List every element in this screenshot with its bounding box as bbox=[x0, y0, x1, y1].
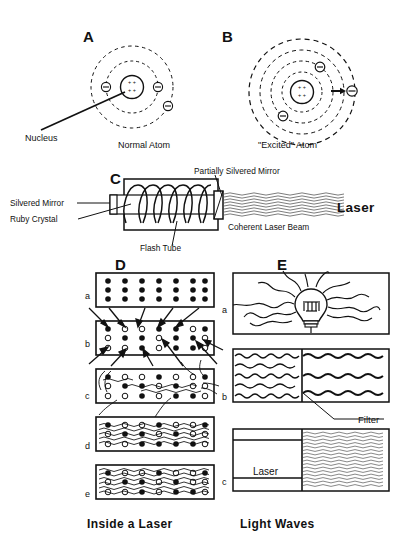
caption-light-waves: Light Waves bbox=[240, 517, 315, 531]
panel-d-row-label-a: a bbox=[85, 291, 90, 301]
nucleus-charge-top-a: + + bbox=[128, 79, 136, 85]
label-laser-word: Laser bbox=[337, 200, 375, 215]
panel-d-row-label-e: e bbox=[85, 489, 90, 499]
nucleus-charge-top-b: + + bbox=[298, 84, 306, 90]
panel-d-row-label-c: c bbox=[85, 391, 90, 401]
panel-letter-d: D bbox=[115, 256, 126, 273]
d-stage-b-box bbox=[96, 321, 214, 355]
panel-e-row-label-b: b bbox=[222, 392, 227, 402]
silvered-mirror bbox=[110, 195, 117, 214]
label-flash-tube: Flash Tube bbox=[140, 243, 181, 253]
nucleus-charge-bottom-a: + + bbox=[128, 87, 136, 93]
label-silvered-mirror: Silvered Mirror bbox=[10, 198, 64, 208]
label-ruby-crystal: Ruby Crystal bbox=[10, 214, 58, 224]
label-coherent-laser-beam: Coherent Laser Beam bbox=[228, 222, 309, 232]
electron-left-a bbox=[101, 82, 110, 91]
panel-e-row-label-a: a bbox=[222, 305, 227, 315]
panel-d-stages bbox=[95, 272, 220, 502]
nucleus-charge-bottom-b: + + bbox=[298, 92, 306, 98]
label-laser-box: Laser bbox=[253, 466, 278, 477]
panel-d-row-label-b: b bbox=[85, 339, 90, 349]
d-stage-d-box bbox=[96, 417, 214, 451]
electron-jumping-b bbox=[347, 86, 357, 96]
panel-b-caption: "Excited" Atom bbox=[258, 140, 317, 150]
electron-outer-a bbox=[163, 101, 172, 110]
panel-b-atom-diagram: + + + + bbox=[215, 36, 400, 154]
nucleus-pointer-line-a bbox=[41, 92, 125, 130]
panel-d-row-label-d: d bbox=[85, 441, 90, 451]
caption-inside-a-laser: Inside a Laser bbox=[87, 517, 173, 531]
nucleus-label: Nucleus bbox=[25, 133, 58, 143]
panel-e-row-label-c: c bbox=[222, 477, 227, 487]
electron-lower-b bbox=[278, 111, 288, 121]
laser-figure: A + + + + Nucleus Normal Atom B + + + + bbox=[0, 0, 410, 559]
label-filter: Filter bbox=[358, 414, 379, 425]
electron-upper-b bbox=[315, 62, 325, 72]
coherent-laser-beam bbox=[224, 193, 344, 216]
panel-letter-e: E bbox=[277, 256, 287, 273]
electron-right-a bbox=[153, 82, 162, 91]
label-partially-silvered-mirror: Partially Silvered Mirror bbox=[194, 166, 280, 176]
panel-a-caption: Normal Atom bbox=[118, 140, 170, 150]
d-stage-a-box bbox=[96, 273, 214, 307]
